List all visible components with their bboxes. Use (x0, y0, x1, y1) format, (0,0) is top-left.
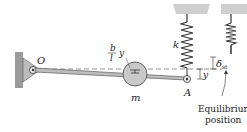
label-k: k (173, 39, 179, 50)
label-equilibrium: Equilibrium (198, 104, 247, 114)
wall-support (15, 52, 23, 88)
spring-k (181, 22, 193, 68)
label-o: O (37, 55, 45, 66)
label-y-mass: y (118, 48, 125, 58)
label-position: position (205, 115, 242, 125)
vibration-diagram: O b l y m k A y δ st Equilibrium positio… (0, 0, 247, 132)
rod (35, 68, 186, 80)
label-a: A (183, 87, 191, 98)
ceiling-right (221, 4, 247, 14)
label-l: l (110, 53, 113, 63)
ceiling-left (173, 4, 210, 14)
label-b: b (110, 43, 116, 53)
equilibrium-arrow (222, 72, 226, 96)
label-y-a: y (202, 70, 209, 80)
label-delta-sub: st (222, 63, 228, 70)
mass-m (123, 62, 147, 86)
spring-unstretched (226, 23, 236, 45)
label-m: m (131, 92, 140, 103)
